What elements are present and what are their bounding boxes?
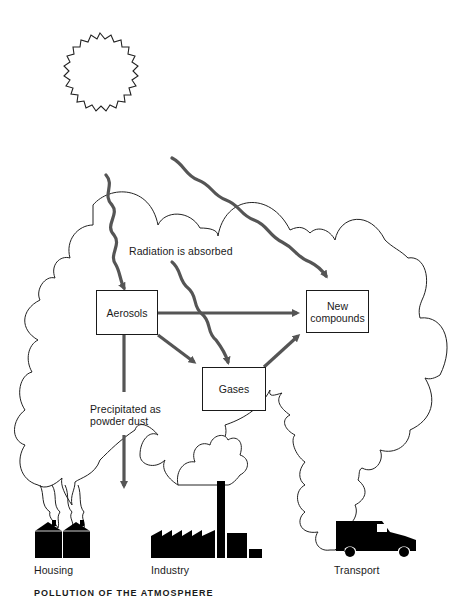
source-industry-label: Industry <box>151 564 189 576</box>
node-aerosols: Aerosols <box>96 290 158 335</box>
source-housing-label: Housing <box>34 564 73 576</box>
transport-icon <box>336 521 416 557</box>
housing-icon <box>35 520 90 558</box>
node-new-compounds: New compounds <box>306 290 369 333</box>
node-gases: Gases <box>202 367 266 411</box>
node-aerosols-label: Aerosols <box>107 307 148 319</box>
precipitated-label-line2: powder dust <box>90 415 161 427</box>
node-new-compounds-line2: compounds <box>310 312 364 324</box>
precipitated-label-line1: Precipitated as <box>90 403 161 415</box>
sun-icon <box>64 33 138 111</box>
node-gases-label: Gases <box>219 383 249 395</box>
radiation-label: Radiation is absorbed <box>129 245 233 257</box>
node-new-compounds-line1: New <box>327 300 348 312</box>
industry-icon <box>151 481 262 558</box>
figure-caption: POLLUTION OF THE ATMOSPHERE <box>34 588 214 598</box>
source-transport-label: Transport <box>334 564 379 576</box>
precipitated-label: Precipitated as powder dust <box>90 403 161 427</box>
